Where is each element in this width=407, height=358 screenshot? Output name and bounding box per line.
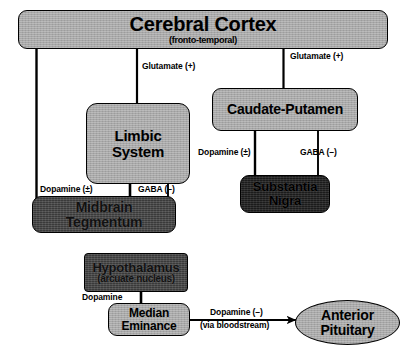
edge-label-gaba-caudate-to-nigra: GABA (–): [300, 147, 337, 157]
edge-label-dopamine-hypothalamus-to-eminance: Dopamine: [82, 292, 122, 302]
node-limbic-system[interactable]: Limbic System: [86, 103, 190, 184]
node-limbic-system-title-line2: System: [112, 144, 164, 160]
edge-label-dopamine-eminance-to-pituitary-line1: Dopamine (–): [210, 307, 263, 317]
node-substantia-nigra-title-line1: Substantia: [253, 180, 317, 194]
edge-label-glutamate-cortex-to-caudate: Glutamate (+): [290, 51, 343, 61]
edge-label-glutamate-cortex-to-limbic: Glutamate (+): [142, 61, 195, 71]
neurotransmitter-pathway-diagram: Cerebral Cortex (fronto-temporal) Limbic…: [0, 0, 407, 358]
node-midbrain-tegmentum-title-line1: Midbrain: [76, 200, 133, 215]
node-midbrain-tegmentum[interactable]: Midbrain Tegmentum: [32, 196, 176, 233]
node-median-eminance[interactable]: Median Eminance: [108, 303, 190, 336]
node-anterior-pituitary[interactable]: Anterior Pituitary: [295, 300, 400, 345]
node-anterior-pituitary-title-line1: Anterior: [321, 308, 374, 323]
edge-label-gaba-limbic-to-midbrain: GABA (–): [138, 184, 175, 194]
node-cerebral-cortex[interactable]: Cerebral Cortex (fronto-temporal): [18, 10, 388, 49]
node-caudate-putamen[interactable]: Caudate-Putamen: [212, 88, 358, 131]
node-substantia-nigra[interactable]: Substantia Nigra: [240, 175, 330, 213]
node-limbic-system-title-line1: Limbic: [114, 128, 161, 144]
node-hypothalamus-subtitle: (arcuate nucleus): [97, 274, 175, 284]
edge-label-dopamine-midbrain-to-limbic: Dopamine (±): [40, 184, 93, 194]
node-midbrain-tegmentum-title-line2: Tegmentum: [66, 215, 143, 230]
node-hypothalamus[interactable]: Hypothalamus (arcuate nucleus): [84, 253, 188, 292]
edge-label-dopamine-nigra-to-caudate: Dopamine (±): [198, 147, 251, 157]
node-cerebral-cortex-subtitle: (fronto-temporal): [169, 36, 237, 45]
node-anterior-pituitary-title-line2: Pituitary: [320, 323, 374, 338]
node-substantia-nigra-title-line2: Nigra: [269, 194, 301, 208]
node-caudate-putamen-title: Caudate-Putamen: [227, 102, 343, 117]
edge-label-dopamine-eminance-to-pituitary-line2: (via bloodstream): [200, 320, 269, 330]
node-median-eminance-title-line1: Median: [129, 307, 169, 319]
node-median-eminance-title-line2: Eminance: [121, 320, 176, 332]
node-cerebral-cortex-title: Cerebral Cortex: [129, 14, 276, 35]
